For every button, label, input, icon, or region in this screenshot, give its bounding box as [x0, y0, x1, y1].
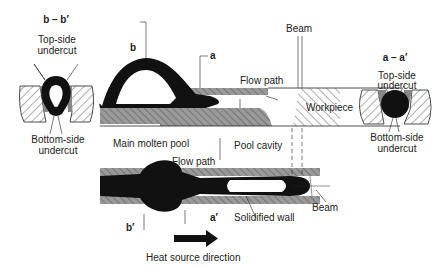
side-view [99, 22, 400, 126]
marker-a: a [210, 50, 216, 61]
aa-top-label-2: undercut [372, 80, 422, 91]
section-bb [20, 64, 94, 134]
side-flow-path-label: Flow path [240, 75, 283, 86]
aa-bottom-label-2: undercut [366, 143, 428, 154]
workpiece-label: Workpiece [306, 102, 353, 113]
section-aa-title: a – a′ [375, 52, 415, 63]
section-bb-title: b – b′ [36, 14, 76, 25]
marker-b: b [130, 42, 136, 53]
heat-direction-arrow [174, 230, 218, 247]
pool-cavity-label: Pool cavity [234, 140, 282, 151]
solidified-wall-label: Solidified wall [234, 212, 295, 223]
bb-top-label-2: undercut [32, 45, 82, 56]
bb-bottom-label-2: undercut [28, 145, 88, 156]
aa-bottom-label-1: Bottom-side [366, 132, 428, 143]
top-beam-label: Beam [312, 202, 338, 213]
side-beam-label: Beam [286, 23, 312, 34]
heat-direction-label: Heat source direction [146, 252, 241, 263]
marker-a-prime: a′ [210, 212, 218, 223]
bb-bottom-label-1: Bottom-side [28, 134, 88, 145]
main-molten-pool-label: Main molten pool [113, 138, 189, 149]
top-flow-path-label: Flow path [172, 156, 215, 167]
marker-b-prime: b′ [126, 222, 135, 233]
section-aa [359, 86, 431, 132]
bb-top-label-1: Top-side [32, 34, 82, 45]
